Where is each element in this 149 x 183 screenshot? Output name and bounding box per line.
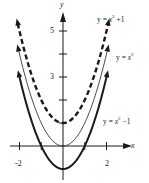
x-tick-label-neg2: -2: [15, 160, 22, 168]
curve-label-x2: y = x2: [116, 52, 134, 61]
x-tick-label-2: 2: [105, 160, 109, 168]
y-axis-arrow-icon: [60, 12, 66, 22]
y-axis-label: y: [60, 1, 64, 9]
curve-arrow-icon: [104, 44, 109, 51]
parabola-chart: [0, 0, 149, 183]
curve-arrow-icon: [17, 70, 22, 77]
y-tick-label-3: 3: [50, 73, 54, 81]
curve-label-x2-minus-1: y = x2 −1: [103, 116, 130, 125]
curve-arrow-icon: [104, 70, 109, 77]
curve-arrow-icon: [16, 44, 21, 51]
axes: [10, 12, 132, 180]
curve-arrow-icon: [15, 19, 20, 26]
x-axis-label: x: [131, 142, 135, 150]
curve-label-x2-plus-1: y = x2 +1: [97, 14, 124, 23]
y-tick-label-5: 5: [50, 27, 54, 35]
